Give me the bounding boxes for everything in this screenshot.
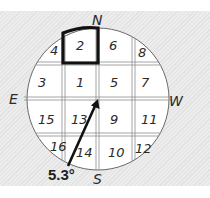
compass-grid-diagram: N S E W 4 2 6 8 3 1 5 7 15 13 9 11 16 14… xyxy=(0,0,210,198)
cell-10: 10 xyxy=(108,145,125,160)
east-label: E xyxy=(9,91,18,107)
north-label: N xyxy=(92,12,103,28)
cell-7: 7 xyxy=(141,75,150,90)
cell-1: 1 xyxy=(76,75,84,90)
cell-14: 14 xyxy=(76,145,93,160)
cell-3: 3 xyxy=(38,75,46,90)
cell-16: 16 xyxy=(50,139,67,154)
west-label: W xyxy=(169,93,184,109)
cell-5: 5 xyxy=(110,75,118,90)
angle-label: 5.3° xyxy=(48,166,75,183)
cell-9: 9 xyxy=(110,112,118,127)
cell-15: 15 xyxy=(38,112,55,127)
cell-11: 11 xyxy=(141,112,158,127)
south-label: S xyxy=(93,171,102,187)
cell-8: 8 xyxy=(138,45,146,60)
cell-4: 4 xyxy=(50,43,58,58)
cell-12: 12 xyxy=(135,141,152,156)
cell-2: 2 xyxy=(76,38,84,53)
cell-6: 6 xyxy=(109,38,117,53)
cell-13: 13 xyxy=(71,112,88,127)
